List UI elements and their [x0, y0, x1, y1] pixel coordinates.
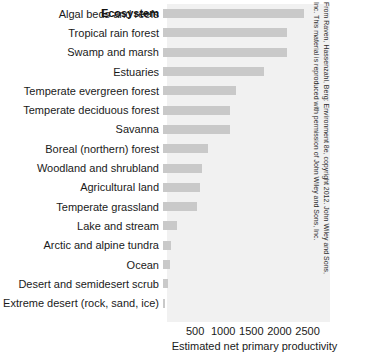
x-tick-label: 2000 — [267, 325, 291, 337]
chart-row: Lake and stream — [0, 216, 330, 235]
x-tick-label: 500 — [186, 325, 204, 337]
bar — [163, 125, 230, 134]
chart-row: Savanna — [0, 120, 330, 139]
category-label: Lake and stream — [0, 220, 163, 232]
bar — [163, 164, 202, 173]
bar — [163, 48, 287, 57]
chart-row: Temperate evergreen forest — [0, 81, 330, 100]
chart-row: Extreme desert (rock, sand, ice) — [0, 293, 330, 312]
category-label: Extreme desert (rock, sand, ice) — [0, 297, 163, 309]
chart-figure: Ecosystem Algal beds and reefsTropical r… — [0, 0, 370, 357]
category-label: Temperate evergreen forest — [0, 85, 163, 97]
chart-row: Temperate deciduous forest — [0, 100, 330, 119]
chart-row: Swamp and marsh — [0, 43, 330, 62]
x-tick-label: 1500 — [239, 325, 263, 337]
category-label: Estuaries — [0, 66, 163, 78]
bar — [163, 144, 208, 153]
category-label: Temperate grassland — [0, 201, 163, 213]
chart-row: Tropical rain forest — [0, 23, 330, 42]
bar — [163, 299, 165, 308]
credit-line-1: From Raven, Hassenzahl, Berg: Environmen… — [322, 2, 332, 357]
bar — [163, 183, 200, 192]
chart-row: Estuaries — [0, 62, 330, 81]
category-label: Desert and semidesert scrub — [0, 278, 163, 290]
bar — [163, 28, 287, 37]
bar — [163, 221, 177, 230]
bar-rows-container: Algal beds and reefsTropical rain forest… — [0, 4, 330, 322]
chart-row: Temperate grassland — [0, 197, 330, 216]
x-tick-label: 1000 — [211, 325, 235, 337]
chart-row: Arctic and alpine tundra — [0, 236, 330, 255]
bar — [163, 260, 170, 269]
category-label: Agricultural land — [0, 181, 163, 193]
category-label: Temperate deciduous forest — [0, 104, 163, 116]
chart-row: Boreal (northern) forest — [0, 139, 330, 158]
bar — [163, 202, 197, 211]
category-label: Tropical rain forest — [0, 27, 163, 39]
chart-row: Woodland and shrubland — [0, 158, 330, 177]
credit-line-2: Inc. This material is reproduced with pe… — [312, 2, 322, 357]
bar — [163, 86, 236, 95]
category-label: Swamp and marsh — [0, 46, 163, 58]
category-label: Ocean — [0, 259, 163, 271]
bar — [163, 9, 304, 18]
chart-row: Agricultural land — [0, 178, 330, 197]
bar — [163, 67, 264, 76]
bar — [163, 241, 171, 250]
copyright-credit-text: From Raven, Hassenzahl, Berg: Environmen… — [293, 0, 331, 357]
chart-row: Desert and semidesert scrub — [0, 274, 330, 293]
bar — [163, 106, 230, 115]
category-label: Arctic and alpine tundra — [0, 239, 163, 251]
category-label: Algal beds and reefs — [0, 8, 163, 20]
category-label: Woodland and shrubland — [0, 162, 163, 174]
category-label: Savanna — [0, 123, 163, 135]
bar — [163, 279, 168, 288]
chart-row: Algal beds and reefs — [0, 4, 330, 23]
chart-row: Ocean — [0, 255, 330, 274]
category-label: Boreal (northern) forest — [0, 143, 163, 155]
